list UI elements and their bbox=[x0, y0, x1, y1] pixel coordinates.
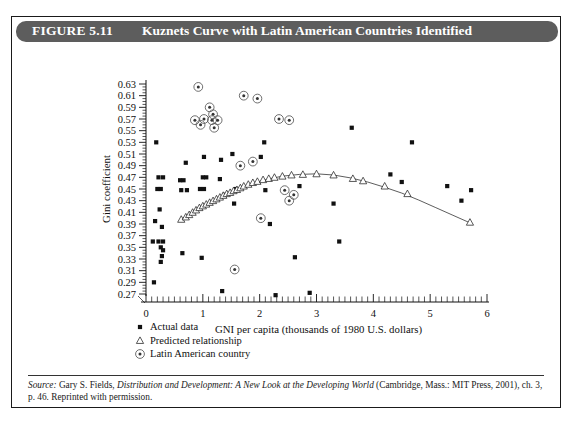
source-work-title: Distribution and Development: A New Look… bbox=[117, 380, 374, 390]
y-axis-tick-label: 0.57 bbox=[118, 114, 136, 125]
data-point-actual bbox=[151, 239, 155, 243]
y-axis-tick-label: 0.29 bbox=[118, 277, 136, 288]
marker-dot bbox=[202, 118, 205, 121]
marker-dot bbox=[197, 85, 200, 88]
legend-label: Actual data bbox=[150, 321, 198, 332]
marker-dot bbox=[213, 126, 216, 129]
y-axis-tick-label: 0.45 bbox=[118, 184, 136, 195]
y-axis-tick-label: 0.51 bbox=[118, 149, 136, 160]
data-point-actual bbox=[180, 251, 184, 255]
y-axis-tick-label: 0.63 bbox=[118, 79, 136, 90]
marker-dot bbox=[199, 123, 202, 126]
legend-label: Latin American country bbox=[150, 348, 251, 359]
data-point-actual bbox=[200, 256, 204, 260]
data-point-actual bbox=[220, 289, 224, 293]
data-point-latin-american bbox=[285, 196, 294, 205]
marker-dot bbox=[277, 118, 280, 121]
marker-dot bbox=[256, 97, 259, 100]
y-axis-tick-label: 0.43 bbox=[118, 195, 136, 206]
data-point-actual bbox=[469, 188, 473, 192]
legend-marker-latin-american-country bbox=[136, 350, 145, 359]
marker-dot bbox=[288, 119, 291, 122]
data-point-actual bbox=[185, 188, 189, 192]
data-point-actual bbox=[337, 239, 341, 243]
y-axis-title: Gini coefficient bbox=[100, 155, 112, 223]
data-point-latin-american bbox=[209, 110, 218, 119]
data-point-actual bbox=[181, 178, 185, 182]
data-point-actual bbox=[331, 201, 335, 205]
data-point-actual bbox=[160, 225, 164, 229]
marker-dot bbox=[193, 119, 196, 122]
data-point-latin-american bbox=[213, 116, 222, 125]
data-point-latin-american bbox=[275, 115, 284, 124]
data-point-actual bbox=[184, 161, 188, 165]
kuznets-curve-chart: 0.270.290.310.330.350.370.390.410.430.45… bbox=[12, 42, 560, 382]
figure-number-label: FIGURE 5.11 bbox=[32, 23, 113, 39]
data-point-actual bbox=[161, 239, 165, 243]
y-axis-tick-label: 0.61 bbox=[118, 90, 136, 101]
data-point-actual bbox=[156, 239, 160, 243]
data-point-actual bbox=[204, 175, 208, 179]
x-axis-tick-label: 6 bbox=[484, 308, 489, 319]
y-axis-tick-label: 0.53 bbox=[118, 137, 136, 148]
data-point-actual bbox=[160, 254, 164, 258]
figure-container: FIGURE 5.11 Kuznets Curve with Latin Ame… bbox=[11, 16, 561, 408]
data-point-actual bbox=[161, 175, 165, 179]
y-axis-tick-label: 0.31 bbox=[118, 265, 136, 276]
data-point-actual bbox=[297, 184, 301, 188]
legend-marker-actual-data bbox=[138, 325, 142, 329]
data-point-predicted bbox=[313, 170, 320, 177]
data-point-actual bbox=[161, 248, 165, 252]
data-point-actual bbox=[202, 187, 206, 191]
data-point-latin-american bbox=[205, 103, 214, 112]
y-axis-tick-label: 0.41 bbox=[118, 207, 136, 218]
x-axis-title: GNI per capita (thousands of 1980 U.S. d… bbox=[215, 323, 423, 336]
data-point-actual bbox=[198, 187, 202, 191]
y-axis-tick-label: 0.59 bbox=[118, 102, 136, 113]
y-axis-tick-label: 0.49 bbox=[118, 160, 136, 171]
data-point-predicted bbox=[381, 182, 388, 189]
data-point-latin-american bbox=[256, 214, 265, 223]
y-axis-tick-label: 0.47 bbox=[118, 172, 136, 183]
data-point-actual bbox=[152, 280, 156, 284]
data-point-actual bbox=[262, 140, 266, 144]
marker-dot bbox=[242, 94, 245, 97]
data-point-actual bbox=[153, 219, 157, 223]
data-point-actual bbox=[156, 175, 160, 179]
source-note: Source: Gary S. Fields, Distribution and… bbox=[28, 379, 548, 404]
data-point-latin-american bbox=[190, 116, 199, 125]
x-axis-tick-label: 1 bbox=[200, 308, 205, 319]
data-point-actual bbox=[388, 172, 392, 176]
y-axis-tick-label: 0.33 bbox=[118, 254, 136, 265]
data-point-actual bbox=[273, 293, 277, 297]
source-text-before: Gary S. Fields, bbox=[57, 380, 117, 390]
x-axis-tick-label: 4 bbox=[371, 308, 377, 319]
data-point-actual bbox=[350, 126, 354, 130]
source-label: Source: bbox=[28, 380, 57, 390]
source-divider bbox=[28, 375, 544, 376]
data-point-latin-american bbox=[253, 94, 262, 103]
data-point-actual bbox=[179, 188, 183, 192]
x-axis-tick-label: 2 bbox=[257, 308, 262, 319]
x-axis-tick-label: 5 bbox=[428, 308, 433, 319]
data-point-latin-american bbox=[280, 186, 289, 195]
figure-title-bar: FIGURE 5.11 Kuznets Curve with Latin Ame… bbox=[16, 21, 558, 42]
y-axis-tick-label: 0.55 bbox=[118, 125, 136, 136]
data-point-latin-american bbox=[285, 116, 294, 125]
data-point-actual bbox=[202, 155, 206, 159]
data-point-predicted bbox=[404, 190, 411, 197]
data-point-actual bbox=[400, 180, 404, 184]
data-point-latin-american bbox=[289, 190, 298, 199]
data-point-actual bbox=[410, 140, 414, 144]
data-point-actual bbox=[459, 199, 463, 203]
marker-dot bbox=[251, 160, 254, 163]
data-point-actual bbox=[445, 184, 449, 188]
data-point-actual bbox=[158, 207, 162, 211]
marker-dot bbox=[239, 164, 242, 167]
x-axis-tick-label: 3 bbox=[314, 308, 319, 319]
marker-dot bbox=[292, 193, 295, 196]
marker-dot bbox=[259, 217, 262, 220]
marker-dot bbox=[216, 119, 219, 122]
data-point-actual bbox=[218, 177, 222, 181]
data-point-latin-american bbox=[230, 265, 239, 274]
